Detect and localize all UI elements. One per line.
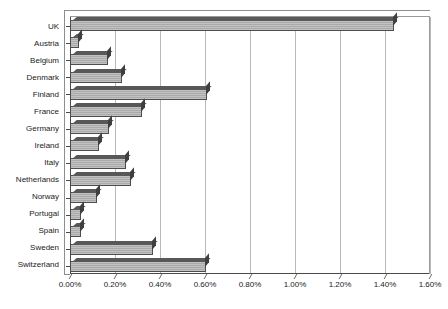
- bar: [70, 175, 131, 186]
- category-axis-label: Switzerland: [0, 257, 64, 274]
- value-axis-label: 1.40%: [374, 281, 397, 289]
- bar-slot: [70, 120, 430, 137]
- category-axis-label: Spain: [0, 223, 64, 240]
- bar-slot: [70, 17, 430, 34]
- bar-slot: [70, 34, 430, 51]
- value-axis-label: 1.20%: [329, 281, 352, 289]
- bar-slot: [70, 223, 430, 240]
- value-axis-labels: 0.00%0.20%0.40%0.60%0.80%1.00%1.20%1.40%…: [0, 281, 448, 297]
- bar: [70, 37, 79, 48]
- bar: [70, 209, 81, 220]
- bar: [70, 72, 122, 83]
- bar-slot: [70, 258, 430, 275]
- category-axis-label: France: [0, 103, 64, 120]
- bar-slot: [70, 103, 430, 120]
- bar: [70, 89, 207, 100]
- bar-slot: [70, 189, 430, 206]
- category-axis-label: Portugal: [0, 206, 64, 223]
- category-axis-label: Finland: [0, 86, 64, 103]
- value-axis-label: 1.00%: [284, 281, 307, 289]
- bar-series: [70, 17, 429, 274]
- category-axis-label: Norway: [0, 189, 64, 206]
- category-axis-label: Netherlands: [0, 172, 64, 189]
- category-axis-label: Germany: [0, 120, 64, 137]
- category-axis-label: Sweden: [0, 240, 64, 257]
- bar: [70, 123, 109, 134]
- bar: [70, 140, 99, 151]
- bar-slot: [70, 137, 430, 154]
- value-axis-label: 0.80%: [239, 281, 262, 289]
- value-axis-label: 0.20%: [104, 281, 127, 289]
- bar-slot: [70, 86, 430, 103]
- bar: [70, 20, 394, 31]
- plot-area: [70, 16, 430, 274]
- category-axis-label: Ireland: [0, 137, 64, 154]
- bar-slot: [70, 172, 430, 189]
- category-axis-labels: UKAustriaBelgiumDenmarkFinlandFranceGerm…: [0, 18, 64, 274]
- category-axis-label: Denmark: [0, 69, 64, 86]
- bar: [70, 158, 126, 169]
- value-axis-label: 0.00%: [59, 281, 82, 289]
- category-axis-label: Belgium: [0, 52, 64, 69]
- bar: [70, 54, 108, 65]
- category-axis-label: Italy: [0, 155, 64, 172]
- value-axis-label: 0.60%: [194, 281, 217, 289]
- bar-slot: [70, 241, 430, 258]
- value-axis-label: 0.40%: [149, 281, 172, 289]
- bar-slot: [70, 69, 430, 86]
- bar: [70, 106, 142, 117]
- bar: [70, 244, 153, 255]
- category-axis-label: UK: [0, 18, 64, 35]
- value-axis-label: 1.60%: [419, 281, 442, 289]
- bar-chart: UKAustriaBelgiumDenmarkFinlandFranceGerm…: [0, 0, 448, 309]
- bar: [70, 261, 206, 272]
- category-axis-label: Austria: [0, 35, 64, 52]
- bar: [70, 226, 81, 237]
- gridline: [430, 17, 431, 274]
- bar-slot: [70, 155, 430, 172]
- bar-slot: [70, 206, 430, 223]
